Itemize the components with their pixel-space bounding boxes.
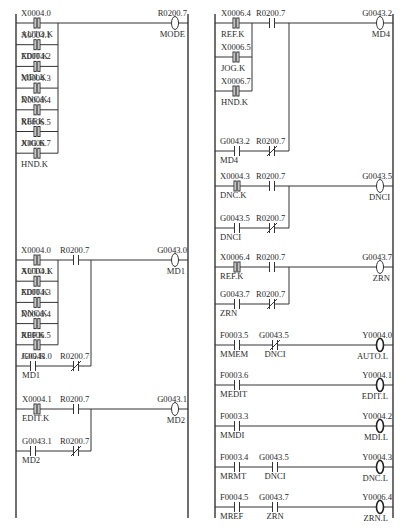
contact-name: MD4	[220, 155, 239, 165]
contact-pulse	[34, 340, 40, 350]
coil-address: Y0004.2	[362, 411, 392, 421]
contact-name: MREF	[220, 511, 244, 521]
contact-address: X0006.5	[221, 42, 251, 52]
coil-symbol	[377, 379, 384, 392]
contact-name: MEDIT	[220, 389, 248, 399]
contact-bar-right	[38, 255, 40, 265]
contact-bar-left	[233, 52, 235, 62]
contact-pulse	[34, 276, 40, 286]
coil-symbol	[377, 180, 384, 193]
contact-name: DNCI	[220, 232, 241, 242]
contact-bar-left	[34, 83, 36, 93]
coil-normal	[172, 403, 179, 416]
coil-name: AUTO.L	[357, 351, 388, 361]
coil-symbol	[172, 403, 179, 416]
contact-name: ZRN	[220, 308, 238, 318]
coil-symbol	[377, 461, 384, 474]
contact-address: G0043.5	[259, 330, 289, 340]
coil-symbol	[377, 501, 384, 514]
contact-bar-right	[38, 148, 40, 158]
contact-name: REF.K	[220, 271, 244, 281]
contact-address: G0043.2	[220, 136, 250, 146]
contact-bar-left	[34, 40, 36, 50]
contact-pulse	[34, 61, 40, 71]
contact-bar-left	[233, 86, 235, 96]
coil-address: G0043.0	[157, 245, 187, 255]
contact-pulse	[34, 297, 40, 307]
contact-pulse	[34, 127, 40, 137]
contact-bar-left	[233, 18, 235, 28]
contact-bar-right	[38, 61, 40, 71]
contact-bar-right	[38, 340, 40, 350]
coil-symbol	[377, 420, 384, 433]
contact-address: X0004.1	[21, 266, 51, 276]
contact-name: MMDI	[220, 430, 244, 440]
contact-name: MD1	[22, 370, 40, 380]
contact-address: X0004.1	[22, 394, 52, 404]
coil-output	[377, 339, 384, 352]
contact-address: X0004.0	[21, 245, 51, 255]
coil-address: Y0004.0	[362, 330, 392, 340]
coil-name: DNC.L	[362, 473, 388, 483]
coil-output	[377, 420, 384, 433]
contact-name: REF.K	[221, 29, 245, 39]
contact-address: F0003.5	[220, 330, 248, 340]
rung-zrn: X0006.4REF.KR0200.7G0043.7ZRNR0200.7G004…	[215, 252, 393, 318]
contact-address: R0200.7	[60, 436, 90, 446]
coil-symbol	[377, 17, 384, 30]
contact-bar-left	[34, 340, 36, 350]
contact-name: MRMT	[220, 471, 247, 481]
contact-address: R0200.7	[256, 289, 286, 299]
rung-edit-lamp: F0003.6MEDITY0004.1EDIT.L	[215, 370, 393, 401]
contact-bar-right	[38, 105, 40, 115]
contact-bar-left	[34, 276, 36, 286]
contact-name: JOG.K	[221, 63, 246, 73]
rung-mode: X0004.0AUTO.KX0004.1EDIT.KX0004.2MDI.KX0…	[16, 8, 188, 169]
contact-no	[270, 18, 275, 28]
contact-address: G0043.7	[220, 289, 251, 299]
contact-name: DNCI	[264, 349, 285, 359]
contact-pulse	[34, 40, 40, 50]
coil-name: EDIT.L	[362, 391, 388, 401]
contact-address: X0004.3	[21, 73, 51, 83]
contact-pulse	[233, 86, 239, 96]
coil-name: MODE	[160, 29, 185, 39]
coil-address: G0043.1	[157, 394, 187, 404]
contact-address: G0043.7	[259, 492, 290, 502]
contact-address: X0004.3	[220, 171, 250, 181]
coil-name: ZRN	[373, 273, 391, 283]
left-panel: X0004.0AUTO.KX0004.1EDIT.KX0004.2MDI.KX0…	[16, 8, 188, 518]
contact-name: HND.K	[221, 97, 249, 107]
contact-address: G0043.5	[220, 213, 250, 223]
coil-output	[377, 461, 384, 474]
contact-bar-right	[38, 83, 40, 93]
contact-name: HND.K	[21, 159, 49, 169]
rung-md4: X0006.4REF.KX0006.5JOG.KX0006.7HND.KR020…	[215, 8, 393, 165]
contact-name: MMEM	[220, 349, 249, 359]
contact-address: G0043.0	[22, 351, 52, 361]
contact-address: G0043.5	[259, 452, 289, 462]
coil-name: MD4	[372, 29, 391, 39]
coil-output	[377, 379, 384, 392]
contact-pulse	[34, 148, 40, 158]
coil-symbol	[377, 339, 384, 352]
contact-bar-left	[34, 127, 36, 137]
contact-name: DNCI	[264, 471, 285, 481]
coil-normal	[172, 17, 179, 30]
contact-address: X0004.1	[21, 30, 51, 40]
rung-md1: X0004.0AUTO.KX0004.1EDIT.KX0004.3DNC.KX0…	[16, 245, 188, 380]
contact-address: X0006.4	[21, 95, 52, 105]
contact-address: R0200.7	[256, 252, 286, 262]
coil-symbol	[172, 17, 179, 30]
contact-pulse	[34, 105, 40, 115]
contact-bar-left	[34, 18, 36, 28]
contact-address: R0200.7	[60, 394, 90, 404]
contact-bar-right	[237, 86, 239, 96]
contact-no	[74, 404, 79, 414]
coil-address: R0200.7	[158, 8, 188, 18]
coil-normal	[172, 254, 179, 267]
contact-address: X0006.4	[220, 252, 251, 262]
contact-name: ZRN	[266, 511, 284, 521]
contact-address: X0006.4	[221, 8, 252, 18]
coil-address: Y0004.1	[362, 370, 392, 380]
